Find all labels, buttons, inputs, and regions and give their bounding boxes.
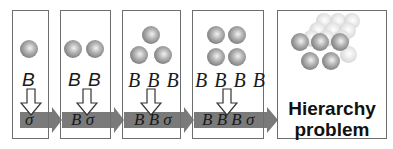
ball-icon [207, 26, 225, 44]
panel-2-band-text: B σ [71, 110, 94, 130]
ball-icon [86, 40, 104, 58]
panel-3-band-text: B B σ [134, 110, 172, 130]
hierarchy-diagram: B σ B B B σ B B B B B σ B B B B B B B σ [0, 0, 393, 149]
hierarchy-problem-title: Hierarchy problem [277, 98, 387, 140]
panel-4-band-text: B B B σ [202, 110, 254, 130]
ball-icon [291, 33, 309, 51]
ball-icon [207, 48, 225, 66]
ball-icon [228, 48, 246, 66]
title-line-1: Hierarchy [277, 98, 387, 119]
ball-icon [322, 52, 340, 70]
panel-1-band-text: σ [25, 110, 33, 130]
ball-icon [64, 40, 82, 58]
title-line-2: problem [277, 119, 387, 140]
ball-icon [301, 52, 319, 70]
ball-icon [228, 26, 246, 44]
ball-icon [142, 26, 160, 44]
ball-icon [331, 33, 349, 51]
ball-icon [20, 40, 38, 58]
ball-icon [311, 33, 329, 51]
ball-icon [154, 46, 172, 64]
ball-icon [130, 46, 148, 64]
